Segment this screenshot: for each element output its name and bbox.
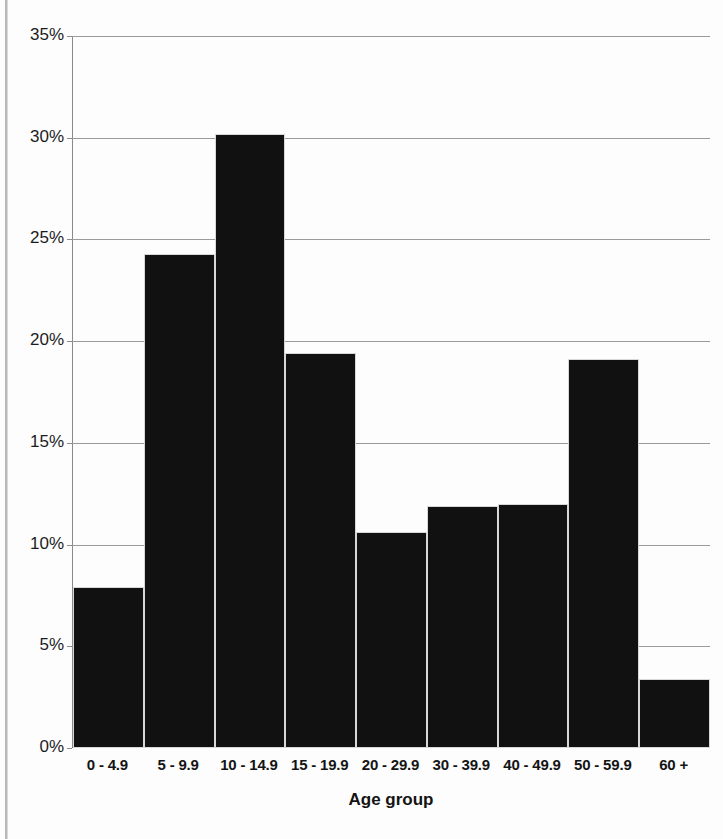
y-tick-mark bbox=[67, 138, 72, 139]
y-tick-mark bbox=[67, 341, 72, 342]
y-axis-label-10pct: 10% bbox=[8, 534, 64, 554]
y-tick-mark bbox=[67, 545, 72, 546]
bar-5-9-9[interactable] bbox=[144, 254, 215, 748]
bar-15-19-9[interactable] bbox=[285, 353, 356, 748]
bar-30-39-9[interactable] bbox=[427, 506, 498, 748]
x-axis-label-0-4-9: 0 - 4.9 bbox=[72, 756, 143, 773]
x-axis-label-60: 60 + bbox=[638, 756, 709, 773]
x-axis-label-10-14-9: 10 - 14.9 bbox=[214, 756, 285, 773]
y-tick-mark bbox=[67, 646, 72, 647]
bar-50-59-9[interactable] bbox=[568, 359, 639, 748]
x-axis-label-50-59-9: 50 - 59.9 bbox=[567, 756, 638, 773]
x-axis-label-5-9-9: 5 - 9.9 bbox=[143, 756, 214, 773]
x-axis-label-15-19-9: 15 - 19.9 bbox=[284, 756, 355, 773]
y-axis-label-20pct: 20% bbox=[8, 330, 64, 350]
y-axis-label-0pct: 0% bbox=[8, 737, 64, 757]
x-axis-label-40-49-9: 40 - 49.9 bbox=[497, 756, 568, 773]
y-axis-label-5pct: 5% bbox=[8, 635, 64, 655]
x-axis-title: Age group bbox=[72, 790, 710, 810]
bar-10-14-9[interactable] bbox=[215, 134, 286, 748]
x-axis-tick-labels: 0 - 4.95 - 9.910 - 14.915 - 19.920 - 29.… bbox=[72, 756, 710, 782]
bar-series bbox=[73, 36, 710, 748]
y-axis-label-15pct: 15% bbox=[8, 432, 64, 452]
y-tick-mark bbox=[67, 443, 72, 444]
x-axis-label-30-39-9: 30 - 39.9 bbox=[426, 756, 497, 773]
y-tick-mark bbox=[67, 748, 72, 749]
y-tick-mark bbox=[67, 36, 72, 37]
bar-20-29-9[interactable] bbox=[356, 532, 427, 748]
x-axis-label-20-29-9: 20 - 29.9 bbox=[355, 756, 426, 773]
y-axis-label-30pct: 30% bbox=[8, 127, 64, 147]
bar-0-4-9[interactable] bbox=[73, 587, 144, 748]
bar-60[interactable] bbox=[639, 679, 710, 748]
plot-area bbox=[72, 36, 710, 748]
y-axis-label-35pct: 35% bbox=[8, 25, 64, 45]
y-axis-label-25pct: 25% bbox=[8, 228, 64, 248]
bar-40-49-9[interactable] bbox=[498, 504, 569, 748]
y-tick-mark bbox=[67, 239, 72, 240]
chart-figure: 35%30%25%20%15%10%5%0% 0 - 4.95 - 9.910 … bbox=[0, 0, 723, 839]
